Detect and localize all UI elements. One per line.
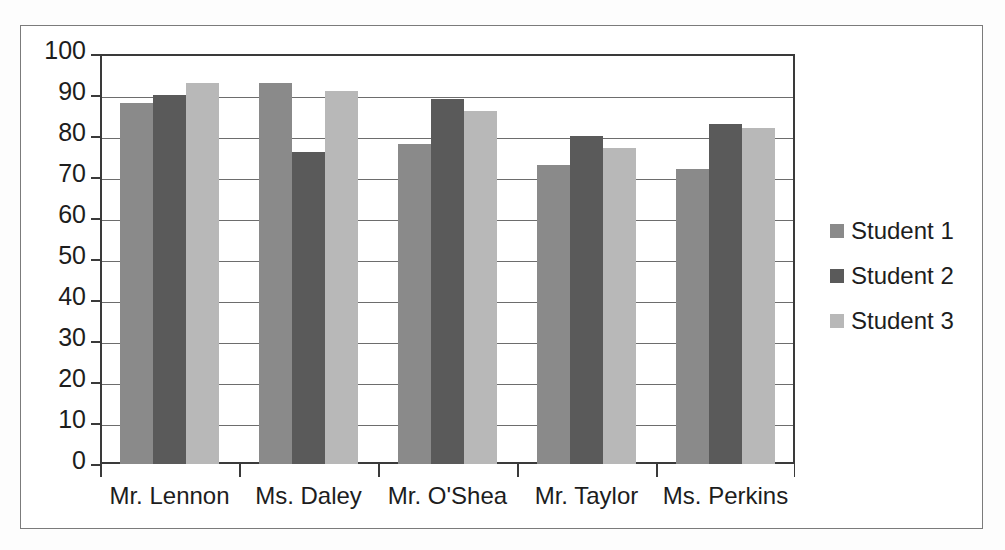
y-tick-mark (91, 218, 100, 220)
x-axis-labels: Mr. LennonMs. DaleyMr. O'SheaMr. TaylorM… (100, 482, 795, 516)
y-tick-label: 30 (58, 325, 86, 350)
y-tick-label: 100 (44, 38, 86, 63)
y-tick-label: 50 (58, 243, 86, 268)
y-tick-mark (91, 341, 100, 343)
y-tick-mark (91, 382, 100, 384)
y-gridlines (102, 56, 793, 462)
x-tick-mark (656, 464, 658, 477)
y-tick-label: 20 (58, 366, 86, 391)
legend-item[interactable]: Student 3 (830, 298, 975, 343)
y-tick-label: 10 (58, 407, 86, 432)
x-axis-label: Mr. O'Shea (388, 482, 507, 510)
x-tick-mark (239, 464, 241, 477)
x-axis-label: Mr. Taylor (535, 482, 639, 510)
legend-item[interactable]: Student 2 (830, 253, 975, 298)
y-tick-label: 70 (58, 161, 86, 186)
gridline (102, 384, 793, 385)
chart-legend: Student 1Student 2Student 3 (830, 208, 975, 343)
y-tick-mark (91, 464, 100, 466)
gridline (102, 138, 793, 139)
legend-swatch-icon (830, 314, 844, 328)
x-axis-ticks (100, 464, 795, 477)
x-tick-mark (378, 464, 380, 477)
y-tick-label: 80 (58, 120, 86, 145)
y-tick-label: 40 (58, 284, 86, 309)
chart-root: 1009080706050403020100 Mr. LennonMs. Dal… (0, 0, 1005, 550)
x-axis-label: Ms. Perkins (663, 482, 788, 510)
y-axis: 1009080706050403020100 (30, 54, 100, 464)
legend-label: Student 3 (851, 307, 954, 335)
y-tick-mark (91, 54, 100, 56)
y-tick-mark (91, 177, 100, 179)
y-tick-mark (91, 300, 100, 302)
legend-label: Student 1 (851, 217, 954, 245)
legend-item[interactable]: Student 1 (830, 208, 975, 253)
gridline (102, 425, 793, 426)
x-tick-mark (794, 464, 796, 477)
gridline (102, 97, 793, 98)
y-tick-mark (91, 259, 100, 261)
y-tick-mark (91, 136, 100, 138)
y-tick-label: 60 (58, 202, 86, 227)
legend-swatch-icon (830, 269, 844, 283)
gridline (102, 302, 793, 303)
legend-label: Student 2 (851, 262, 954, 290)
x-axis-label: Ms. Daley (255, 482, 362, 510)
plot-area (100, 54, 795, 464)
y-tick-label: 0 (72, 448, 86, 473)
y-tick-label: 90 (58, 79, 86, 104)
gridline (102, 343, 793, 344)
y-tick-mark (91, 95, 100, 97)
gridline (102, 220, 793, 221)
y-tick-mark (91, 423, 100, 425)
x-axis-label: Mr. Lennon (109, 482, 229, 510)
gridline (102, 179, 793, 180)
legend-swatch-icon (830, 224, 844, 238)
x-tick-mark (100, 464, 102, 477)
gridline (102, 261, 793, 262)
x-tick-mark (517, 464, 519, 477)
